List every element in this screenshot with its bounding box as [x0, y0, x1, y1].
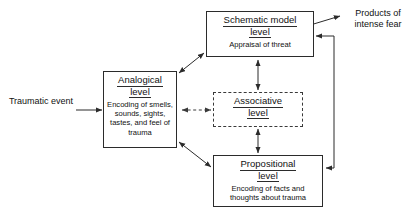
label-traumatic-event: Traumatic event	[8, 96, 74, 107]
node-analogical-title: Analogical level	[104, 72, 176, 98]
node-propositional-body: Encoding of facts and thoughts about tra…	[214, 182, 322, 202]
node-analogical-body: Encoding of smells, sounds, sights, tast…	[104, 98, 176, 137]
node-propositional-level[interactable]: Propositional level Encoding of facts an…	[213, 155, 323, 207]
arrow-analogical-schematic	[179, 53, 204, 73]
node-schematic-body: Appraisal of threat	[207, 38, 313, 49]
arrow-feedback-to-propositional	[326, 36, 334, 168]
arrow-analogical-propositional	[179, 142, 211, 167]
node-schematic-level[interactable]: Schematic model level Appraisal of threa…	[206, 11, 314, 57]
label-products-of-intense-fear: Products of intense fear	[343, 8, 413, 29]
node-analogical-level[interactable]: Analogical level Encoding of smells, sou…	[103, 71, 177, 148]
node-associative-title: Associative level	[214, 93, 302, 119]
node-schematic-title: Schematic model level	[207, 12, 313, 38]
diagram-canvas: Schematic model level Appraisal of threa…	[0, 0, 418, 220]
node-propositional-title: Propositional level	[214, 156, 322, 182]
node-associative-level[interactable]: Associative level	[213, 92, 303, 127]
